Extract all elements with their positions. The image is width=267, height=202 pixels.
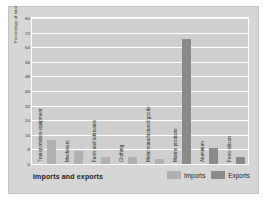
bar-slot: Clothing [115,18,142,164]
category-label: Clothing [119,145,124,162]
bar-exports[interactable] [182,39,191,164]
y-axis-tick-label: 56 [17,59,30,64]
bar-slot: Transportation equipment [34,18,61,164]
category-label: Metal manufactured goods [146,106,151,162]
y-axis-tick-label: 64 [17,45,30,50]
legend-swatch [167,171,181,179]
chart-figure: Percentage of total 80726456484032241680… [8,6,259,194]
bar-exports[interactable] [209,148,218,164]
y-axis-tick-label: 16 [17,132,30,137]
bar-slot: Aluminum [196,18,223,164]
y-axis-tick-labels: 80726456484032241680 [17,17,30,165]
bar-imports[interactable] [74,151,83,164]
y-axis-tick-label: 8 [17,147,30,152]
legend-item[interactable]: Imports [167,171,205,179]
bar-imports[interactable] [101,157,110,164]
legend-label: Exports [228,172,250,179]
bar-slot: Machinery [61,18,88,164]
legend-swatch [211,171,225,179]
category-label: Transportation equipment [38,109,43,162]
y-axis-tick-label: 40 [17,89,30,94]
bar-slot: Metal manufactured goods [142,18,169,164]
legend-label: Imports [184,172,205,179]
bar-imports[interactable] [47,140,56,164]
legend-item[interactable]: Exports [211,171,250,179]
y-axis-tick-label: 0 [17,162,30,167]
bar-slot: Marine products [169,18,196,164]
category-label: Aluminum [200,141,205,162]
category-label: Ferro-silicon [227,136,232,162]
category-label: Fuels and lubricants [92,120,97,162]
bar-slot: Ferro-silicon [223,18,250,164]
y-axis-tick-label: 24 [17,118,30,123]
y-axis-tick-label: 48 [17,74,30,79]
y-axis-tick-label: 32 [17,103,30,108]
x-axis-title: Imports and exports [33,173,103,180]
bar-exports[interactable] [236,157,245,164]
bar-imports[interactable] [155,159,164,164]
category-label: Machinery [65,140,70,162]
category-label: Marine products [173,128,178,162]
plot-area: Transportation equipmentMachineryFuels a… [31,17,249,165]
bar-slot: Fuels and lubricants [88,18,115,164]
y-axis-tick-label: 72 [17,30,30,35]
bar-imports[interactable] [128,157,137,164]
y-axis-tick-label: 80 [17,16,30,21]
bar-group: Transportation equipmentMachineryFuels a… [32,18,248,164]
legend: ImportsExports [167,171,250,179]
